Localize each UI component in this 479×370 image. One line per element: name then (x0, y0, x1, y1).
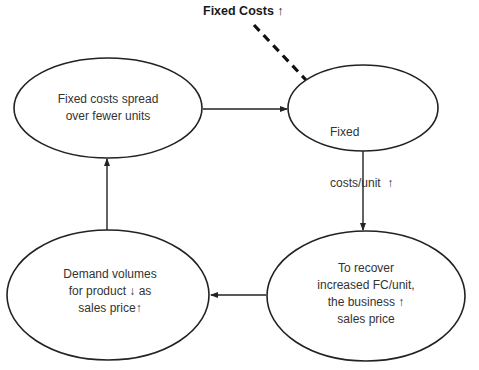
dashed-trigger-line (254, 25, 306, 80)
node-fc-unit-label: Fixed costs/unit ↑ (330, 90, 393, 209)
trigger-label: Fixed Costs ↑ (203, 4, 284, 18)
node-demand-label: Demand volumes for product ↓ as sales pr… (30, 266, 190, 317)
node-recover-label: To recover increased FC/unit, the busine… (286, 260, 446, 328)
node-spread-label: Fixed costs spread over fewer units (28, 91, 188, 125)
